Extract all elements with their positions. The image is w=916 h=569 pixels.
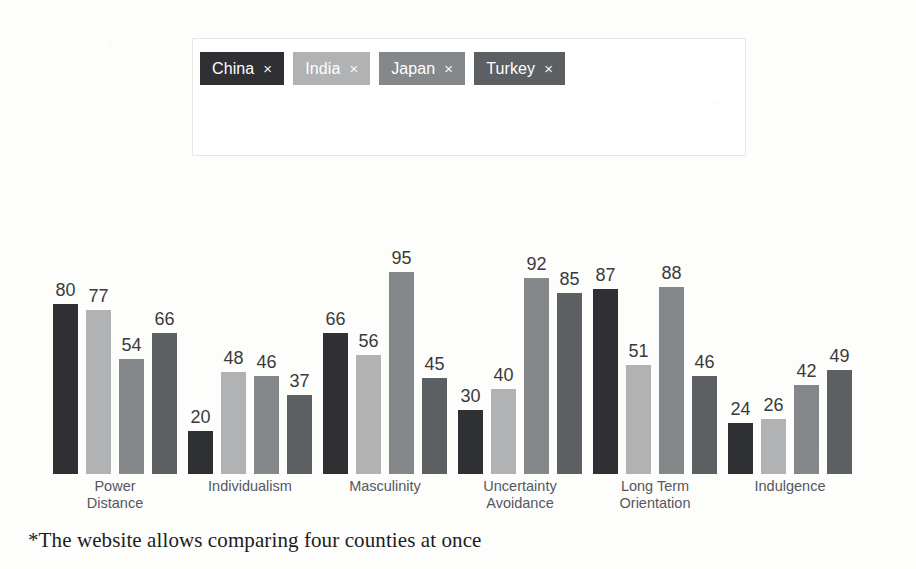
x-axis-label: Power Distance xyxy=(45,478,185,512)
remove-country-icon[interactable]: × xyxy=(263,61,272,76)
bar-turkey[interactable] xyxy=(692,376,717,474)
x-axis-label: Masculinity xyxy=(315,478,455,495)
country-tag-japan[interactable]: Japan× xyxy=(379,52,465,85)
x-axis-label: Individualism xyxy=(180,478,320,495)
bar-turkey[interactable] xyxy=(827,370,852,474)
bar-item: 40 xyxy=(491,200,516,474)
bar-turkey[interactable] xyxy=(557,293,582,474)
bar-japan[interactable] xyxy=(794,385,819,474)
bar-item: 66 xyxy=(152,200,177,474)
bar-japan[interactable] xyxy=(254,376,279,474)
bar-value-label: 66 xyxy=(143,309,187,330)
bar-china[interactable] xyxy=(323,333,348,474)
bar-india[interactable] xyxy=(626,365,651,474)
bar-india[interactable] xyxy=(221,372,246,474)
country-tag-label: Turkey xyxy=(486,61,535,77)
bar-value-label: 45 xyxy=(413,354,457,375)
bar-group: 66569545 xyxy=(323,200,447,474)
bar-japan[interactable] xyxy=(119,359,144,474)
x-axis-label: Indulgence xyxy=(720,478,860,495)
x-axis-label: Uncertainty Avoidance xyxy=(450,478,590,512)
bar-japan[interactable] xyxy=(524,278,549,474)
bar-value-label: 51 xyxy=(617,341,661,362)
bar-china[interactable] xyxy=(458,410,483,474)
bar-group: 20484637 xyxy=(188,200,312,474)
bar-value-label: 46 xyxy=(245,352,289,373)
bar-value-label: 20 xyxy=(179,407,223,428)
bar-item: 46 xyxy=(692,200,717,474)
bar-item: 30 xyxy=(458,200,483,474)
bar-value-label: 49 xyxy=(818,346,862,367)
bar-item: 24 xyxy=(728,200,753,474)
x-axis-label: Long Term Orientation xyxy=(585,478,725,512)
bar-group: 24264249 xyxy=(728,200,852,474)
country-tag-label: Japan xyxy=(391,61,435,77)
bar-group: 87518846 xyxy=(593,200,717,474)
bar-turkey[interactable] xyxy=(287,395,312,474)
bar-item: 56 xyxy=(356,200,381,474)
country-tag-list: China×India×Japan×Turkey× xyxy=(200,52,565,85)
bar-group: 30409285 xyxy=(458,200,582,474)
bar-value-label: 88 xyxy=(650,263,694,284)
bar-item: 66 xyxy=(323,200,348,474)
chart-plot-area: 8077546620484637665695453040928587518846… xyxy=(40,200,890,474)
bar-value-label: 37 xyxy=(278,371,322,392)
bar-china[interactable] xyxy=(53,304,78,474)
remove-country-icon[interactable]: × xyxy=(544,61,553,76)
bar-item: 85 xyxy=(557,200,582,474)
bar-group: 80775466 xyxy=(53,200,177,474)
bar-item: 88 xyxy=(659,200,684,474)
bar-value-label: 95 xyxy=(380,248,424,269)
bar-item: 45 xyxy=(422,200,447,474)
bar-india[interactable] xyxy=(86,310,111,474)
bar-india[interactable] xyxy=(356,355,381,474)
remove-country-icon[interactable]: × xyxy=(444,61,453,76)
bar-turkey[interactable] xyxy=(422,378,447,474)
bar-value-label: 40 xyxy=(482,365,526,386)
bar-item: 48 xyxy=(221,200,246,474)
bar-item: 80 xyxy=(53,200,78,474)
bar-item: 87 xyxy=(593,200,618,474)
bar-turkey[interactable] xyxy=(152,333,177,474)
country-tag-turkey[interactable]: Turkey× xyxy=(474,52,565,85)
hofstede-dimensions-bar-chart: 8077546620484637665695453040928587518846… xyxy=(0,200,916,490)
bar-value-label: 66 xyxy=(314,309,358,330)
remove-country-icon[interactable]: × xyxy=(349,61,358,76)
country-tag-china[interactable]: China× xyxy=(200,52,284,85)
bar-japan[interactable] xyxy=(389,272,414,474)
bar-item: 20 xyxy=(188,200,213,474)
bar-value-label: 56 xyxy=(347,331,391,352)
bar-value-label: 87 xyxy=(584,265,628,286)
country-tag-label: India xyxy=(305,61,340,77)
bar-value-label: 46 xyxy=(683,352,727,373)
bar-china[interactable] xyxy=(593,289,618,474)
bar-item: 49 xyxy=(827,200,852,474)
bar-value-label: 77 xyxy=(77,286,121,307)
bar-item: 95 xyxy=(389,200,414,474)
bar-item: 77 xyxy=(86,200,111,474)
bar-item: 26 xyxy=(761,200,786,474)
chart-x-axis-labels: Power DistanceIndividualismMasculinityUn… xyxy=(40,478,890,524)
bar-item: 92 xyxy=(524,200,549,474)
bar-value-label: 30 xyxy=(449,386,493,407)
bar-item: 42 xyxy=(794,200,819,474)
bar-china[interactable] xyxy=(728,423,753,474)
bar-item: 51 xyxy=(626,200,651,474)
bar-japan[interactable] xyxy=(659,287,684,474)
bar-china[interactable] xyxy=(188,431,213,474)
bar-india[interactable] xyxy=(491,389,516,474)
bar-item: 46 xyxy=(254,200,279,474)
bar-value-label: 26 xyxy=(752,395,796,416)
country-tag-india[interactable]: India× xyxy=(293,52,370,85)
bar-item: 54 xyxy=(119,200,144,474)
figure-caption: *The website allows comparing four count… xyxy=(28,528,482,553)
country-tag-label: China xyxy=(212,61,254,77)
bar-india[interactable] xyxy=(761,419,786,474)
bar-item: 37 xyxy=(287,200,312,474)
bar-value-label: 54 xyxy=(110,335,154,356)
